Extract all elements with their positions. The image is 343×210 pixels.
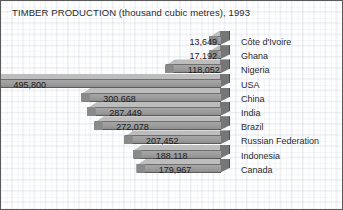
category-label: Canada [241, 164, 273, 176]
category-label: Côte d'Ivoire [241, 36, 291, 48]
bar-side-face [220, 31, 230, 45]
bar-side-face [220, 88, 230, 102]
category-label: China [241, 93, 265, 105]
bar-side-face [220, 74, 230, 88]
bar-left-cap [81, 93, 90, 102]
bar-side-face [220, 130, 230, 144]
plot-area: 13,649Côte d'Ivoire17,192Ghana118,052Nig… [1, 29, 343, 204]
bar-value-label: 179,967 [159, 164, 192, 177]
category-label: Ghana [241, 50, 268, 62]
bar-left-cap [165, 64, 174, 73]
bar-side-face [220, 59, 230, 73]
bar-side-face [220, 102, 230, 116]
bar-left-cap [124, 135, 133, 144]
bar-left-cap [136, 164, 145, 173]
category-label: Brazil [241, 121, 264, 133]
bar-side-face [220, 145, 230, 159]
timber-production-chart: TIMBER PRODUCTION (thousand cubic metres… [0, 0, 343, 210]
bar-left-cap [87, 107, 96, 116]
bar-front-face [95, 121, 221, 130]
bar-left-cap [94, 121, 103, 130]
category-label: USA [241, 79, 260, 91]
chart-title: TIMBER PRODUCTION (thousand cubic metres… [12, 7, 250, 18]
category-label: Nigeria [241, 64, 270, 76]
bar-left-cap [133, 150, 142, 159]
bar-side-face [220, 116, 230, 130]
bar-value-label: 495,800 [13, 79, 46, 92]
category-label: India [241, 107, 261, 119]
bar-front-face [88, 107, 221, 116]
category-label: Russian Federation [241, 135, 319, 147]
bar-side-face [220, 159, 230, 173]
category-label: Indonesia [241, 150, 280, 162]
bar-side-face [220, 45, 230, 59]
bar-brazil [95, 116, 230, 130]
